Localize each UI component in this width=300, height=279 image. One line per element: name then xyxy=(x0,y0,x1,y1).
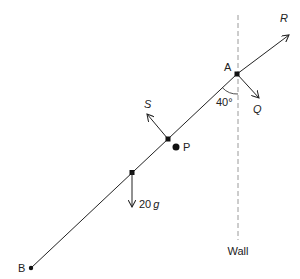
point-a-marker xyxy=(235,72,240,77)
point-p-marker xyxy=(173,144,180,151)
angle-label: 40° xyxy=(216,96,233,108)
point-p-label: P xyxy=(183,141,190,153)
force-s-arrow xyxy=(147,114,168,139)
force-r-arrow xyxy=(237,35,289,74)
wall-label: Wall xyxy=(228,245,249,257)
weight-label: 20g xyxy=(139,198,160,210)
point-a-label: A xyxy=(224,61,232,73)
force-r-label: R xyxy=(280,12,288,24)
force-q-label: Q xyxy=(253,103,262,115)
angle-arc xyxy=(222,88,238,94)
point-s-marker xyxy=(166,137,171,142)
force-q-arrow xyxy=(237,74,259,98)
point-b-marker xyxy=(29,266,33,270)
force-s-label: S xyxy=(144,98,152,110)
point-b-label: B xyxy=(18,262,25,274)
diagram-canvas: Wall R Q 40° A S P 20g B xyxy=(0,0,300,279)
